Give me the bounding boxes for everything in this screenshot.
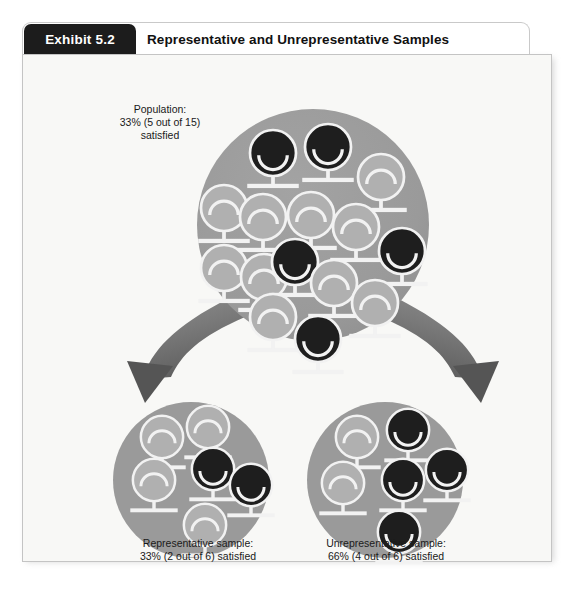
population-caption: Population: 33% (5 out of 15) satisfied — [95, 103, 225, 142]
exhibit-title: Representative and Unrepresentative Samp… — [147, 23, 449, 55]
diagram-canvas: Population: 33% (5 out of 15) satisfied … — [23, 55, 553, 563]
figure-satisfied — [292, 316, 344, 374]
exhibit-page: Exhibit 5.2 Representative and Unreprese… — [0, 0, 574, 593]
exhibit-number-tab: Exhibit 5.2 — [24, 24, 136, 54]
representative-caption: Representative sample: 33% (2 out of 6) … — [108, 537, 288, 563]
arrow-to-representative — [127, 298, 245, 403]
exhibit-body: Population: 33% (5 out of 15) satisfied … — [22, 54, 552, 562]
exhibit-card: Exhibit 5.2 Representative and Unreprese… — [22, 22, 552, 562]
figure-unsatisfied — [247, 294, 299, 352]
arrow-to-unrepresentative — [381, 298, 499, 403]
exhibit-header: Exhibit 5.2 Representative and Unreprese… — [22, 22, 530, 58]
unrepresentative-caption: Unrepresentative sample: 66% (4 out of 6… — [291, 537, 481, 563]
